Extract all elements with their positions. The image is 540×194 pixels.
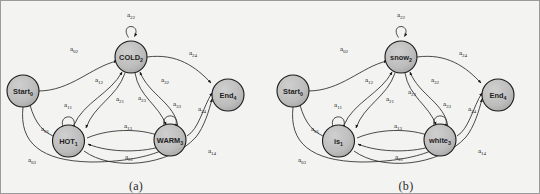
edge-a03 [293,107,435,162]
edge-label-a13: a13 [394,122,403,131]
edge-a22 [396,26,406,37]
edge-label-a11: a11 [64,101,72,110]
node-start-label: Start [13,87,30,96]
edge-a03 [23,107,165,162]
svg-text:white3: white3 [428,136,451,146]
node-white[interactable]: white3 [424,124,456,156]
node-warm-sub: 3 [180,140,183,146]
node-white-label: white [428,136,448,145]
node-hot[interactable]: HOT1 [53,125,85,157]
node-start-label: Start [283,87,300,96]
edge-a34 [457,93,482,136]
edge-a31 [358,144,435,151]
edge-label-a22: a22 [397,11,406,20]
panel-b-caption: (b) [271,179,540,194]
edge-label-a33: a33 [173,100,182,109]
node-cold-sub: 2 [140,57,143,63]
node-end[interactable]: End4 [212,79,244,111]
node-white-sub: 3 [448,140,451,146]
node-is-sub: 1 [340,141,343,147]
automaton-diagram-a: Start0 COLD2 HOT1 [1,1,271,194]
node-warm-label: WARM [157,136,180,145]
edge-label-a24: a24 [189,49,198,58]
edge-label-a21: a21 [116,95,125,104]
edge-label-a12: a12 [365,76,374,85]
node-start[interactable]: Start0 [277,75,309,107]
edge-label-a24: a24 [459,49,468,58]
node-start-sub: 0 [30,91,33,97]
edge-a34 [187,93,212,136]
edge-label-a13: a13 [124,122,133,131]
node-snow-sub: 2 [409,57,412,63]
node-is[interactable]: is1 [323,125,355,157]
edge-label-a31: a31 [125,153,134,162]
edge-label-a02: a02 [70,45,79,54]
node-snow[interactable]: snow2 [385,41,417,73]
edge-a02 [308,61,387,91]
edge-a31 [88,144,165,151]
node-end-label: End [220,91,234,100]
edge-a24 [417,56,481,83]
node-start[interactable]: Start0 [7,75,39,107]
edge-a02 [38,61,117,91]
node-end-sub: 4 [504,95,507,101]
node-end-sub: 4 [234,95,237,101]
edge-a24 [147,56,211,83]
edge-label-a01: a01 [41,125,50,134]
panel-a: Start0 COLD2 HOT1 [1,1,271,194]
node-end-label: End [490,91,504,100]
edge-label-a03: a03 [298,156,307,165]
edge-a13 [357,130,434,138]
node-start-sub: 0 [300,91,303,97]
edge-label-a33: a33 [443,100,452,109]
svg-text:WARM3: WARM3 [157,136,183,146]
figure-frame: Start0 COLD2 HOT1 [0,0,540,194]
node-hot-label: HOT [59,137,75,146]
edge-label-a03: a03 [28,156,37,165]
edge-label-a14: a14 [478,147,487,156]
edge-a13 [87,130,164,138]
node-snow-label: snow [390,53,409,62]
edge-label-a22: a22 [127,11,136,20]
edge-a22 [126,26,136,37]
edge-label-a32: a32 [161,76,170,85]
automaton-diagram-b: Start0 snow2 is1 [271,1,540,194]
edge-label-a11: a11 [334,101,342,110]
svg-text:COLD2: COLD2 [119,53,143,63]
edge-label-a14: a14 [208,147,217,156]
panel-a-caption: (a) [1,179,271,194]
node-hot-sub: 1 [75,141,78,147]
edge-label-a23: a23 [408,88,417,97]
node-cold[interactable]: COLD2 [115,41,147,73]
node-cold-label: COLD [119,53,141,62]
panel-b: Start0 snow2 is1 [271,1,540,194]
edge-label-a02: a02 [340,45,349,54]
edge-label-a21: a21 [386,95,395,104]
node-warm[interactable]: WARM3 [154,124,186,156]
edge-label-a31: a31 [395,153,404,162]
node-end[interactable]: End4 [482,79,514,111]
edge-label-a01: a01 [311,125,320,134]
edge-label-a12: a12 [95,76,104,85]
svg-text:snow2: snow2 [390,53,412,63]
edge-label-a32: a32 [431,76,440,85]
